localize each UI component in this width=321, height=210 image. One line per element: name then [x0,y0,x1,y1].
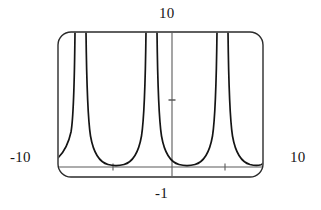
plot-frame [58,32,263,177]
plot-canvas [0,0,321,210]
x-max-label: 10 [290,150,305,165]
graph-figure: 10 -10 10 -1 [0,0,321,210]
y-max-label: 10 [159,6,174,21]
x-min-label: -10 [10,150,31,165]
y-min-label: -1 [155,186,168,201]
